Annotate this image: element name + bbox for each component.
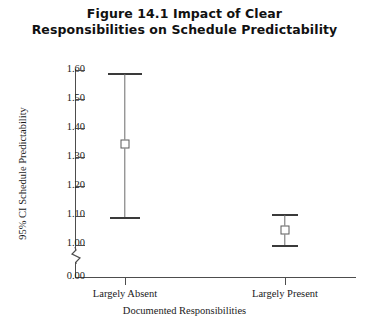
error-bar-largely-present (263, 210, 307, 252)
data-point-marker (121, 140, 130, 149)
x-axis-spine (75, 277, 356, 278)
y-tick-mark-1-10 (76, 216, 85, 217)
y-tick-mark-1-60 (76, 70, 85, 71)
x-tick-mark-largely-present (285, 277, 286, 285)
y-tick-1-10: 1.10 (0, 209, 85, 220)
y-tick-mark-1-30 (76, 157, 85, 158)
x-tick-label-largely-absent: Largely Absent (55, 288, 195, 299)
y-tick-label: 1.10 (55, 209, 85, 220)
figure-root: Figure 14.1 Impact of Clear Responsibili… (0, 0, 369, 329)
y-tick-mark-1-20 (76, 186, 85, 187)
y-tick-mark-1-40 (76, 128, 85, 129)
x-tick-mark-largely-absent (125, 277, 126, 285)
x-tick-label-largely-present: Largely Present (215, 288, 355, 299)
plot-area: 1.60 1.50 1.40 1.30 1.20 1.10 1.00 0.00 (0, 0, 369, 329)
y-tick-0-00: 0.00 (0, 271, 85, 282)
y-tick-label: 0.00 (55, 271, 85, 282)
error-bar-largely-absent (101, 69, 149, 224)
y-tick-1-20: 1.20 (0, 180, 85, 191)
y-tick-1-50: 1.50 (0, 93, 85, 104)
x-axis-title: Documented Responsibilities (0, 305, 369, 316)
y-tick-1-60: 1.60 (0, 64, 85, 75)
y-tick-mark-1-00 (76, 245, 85, 246)
y-tick-1-30: 1.30 (0, 151, 85, 162)
y-tick-label: 1.20 (55, 180, 85, 191)
y-tick-label: 1.00 (55, 238, 85, 249)
y-tick-mark-1-50 (76, 99, 85, 100)
error-bar-lower-cap (272, 245, 298, 247)
y-axis-title: 95% CI Schedule Predictability (17, 74, 28, 274)
y-tick-1-40: 1.40 (0, 122, 85, 133)
error-bar-lower-cap (110, 217, 140, 219)
y-tick-1-00: 1.00 (0, 238, 85, 249)
data-point-marker (281, 225, 290, 234)
